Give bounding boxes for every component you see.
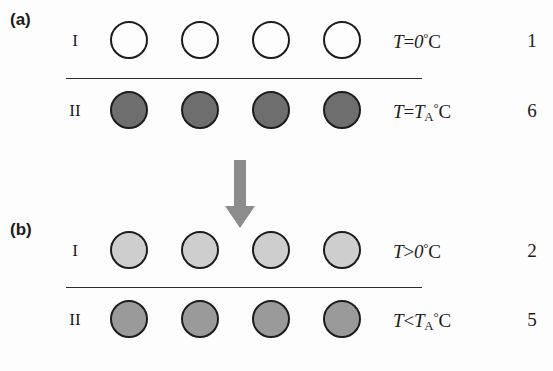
phase-divider — [66, 78, 422, 79]
row-index-a-I: 1 — [520, 30, 544, 52]
particle-circle — [181, 231, 219, 269]
panel-label-a: (a) — [10, 10, 31, 30]
condition-operator: > — [403, 241, 414, 262]
condition-a-I: T=0°C — [393, 30, 441, 55]
condition-unit: C — [439, 310, 451, 331]
condition-unit: C — [428, 241, 440, 262]
phase-divider — [66, 287, 422, 288]
figure-container: (a) I T=0°C 1 II T=TA°C 6 (b) I — [0, 0, 553, 371]
row-index-a-II: 6 — [520, 100, 544, 122]
particle-circle — [110, 231, 148, 269]
panel-label-b: (b) — [10, 220, 32, 240]
particle-circle — [110, 21, 148, 59]
condition-b-II: T<TA°C — [393, 309, 451, 334]
condition-operator: = — [403, 31, 414, 52]
condition-variable: T — [393, 310, 403, 331]
condition-variable: T — [393, 101, 403, 122]
row-index-b-II: 5 — [520, 309, 544, 331]
condition-value-subscript: A — [424, 318, 433, 333]
particle-circle — [252, 300, 290, 338]
condition-a-II: T=TA°C — [393, 100, 451, 125]
particle-circle — [252, 21, 290, 59]
downward-transition-arrow — [224, 160, 256, 234]
row-label-a-II: II — [60, 101, 90, 121]
condition-unit: C — [428, 31, 440, 52]
circle-row-b-II — [110, 300, 380, 346]
condition-value: 0 — [414, 241, 423, 262]
particle-circle — [181, 300, 219, 338]
row-label-a-I: I — [60, 31, 90, 51]
particle-circle — [323, 21, 361, 59]
condition-operator: = — [403, 101, 414, 122]
condition-value: T — [414, 101, 424, 122]
particle-circle — [323, 91, 361, 129]
condition-b-I: T>0°C — [393, 240, 441, 265]
row-index-b-I: 2 — [520, 240, 544, 262]
condition-value: T — [414, 310, 424, 331]
circle-row-a-II — [110, 91, 380, 137]
row-label-b-II: II — [60, 310, 90, 330]
condition-value: 0 — [414, 31, 423, 52]
particle-circle — [252, 91, 290, 129]
particle-circle — [181, 91, 219, 129]
condition-variable: T — [393, 241, 403, 262]
particle-circle — [110, 91, 148, 129]
circle-row-b-I — [110, 231, 380, 277]
particle-circle — [110, 300, 148, 338]
particle-circle — [181, 21, 219, 59]
row-label-b-I: I — [60, 241, 90, 261]
condition-unit: C — [439, 101, 451, 122]
circle-row-a-I — [110, 21, 380, 67]
condition-variable: T — [393, 31, 403, 52]
particle-circle — [323, 300, 361, 338]
particle-circle — [323, 231, 361, 269]
particle-circle — [252, 231, 290, 269]
condition-value-subscript: A — [424, 109, 433, 124]
condition-operator: < — [403, 310, 414, 331]
